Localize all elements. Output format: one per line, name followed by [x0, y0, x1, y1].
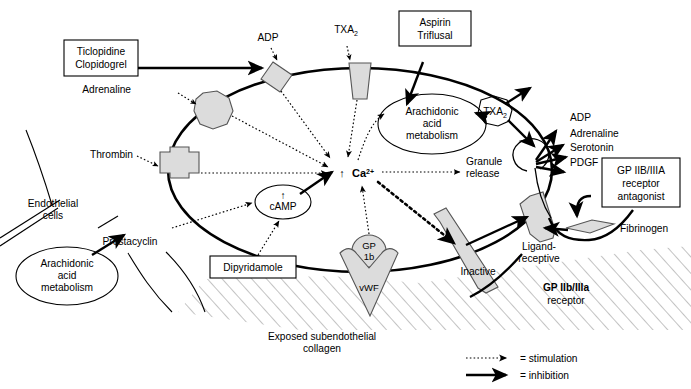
arachidonic-acid-metabolism-endothelium: Arachidonic acid metabolism — [16, 247, 118, 305]
aam-platelet-line3: metabolism — [406, 130, 458, 141]
endothelial-cells-line1: Endothelial — [28, 198, 78, 209]
legend-inhibition-label: = inhibition — [520, 370, 569, 381]
gp2b3a-receptor-line2: receptor — [547, 295, 585, 306]
ligand-receptive-line1: Ligand- — [522, 241, 556, 252]
aam-platelet-line1: Arachidonic — [405, 106, 458, 117]
fibrinogen-molecule[interactable] — [566, 220, 614, 233]
aspirin-line2: Triflusal — [417, 30, 452, 41]
diagram-canvas: GP 1b vWF Arachidonic acid metabolism TX… — [0, 0, 691, 389]
endothelial-cells-line2: cells — [43, 210, 63, 221]
adp-receptor[interactable] — [261, 62, 292, 92]
drug-box-ticlopidine[interactable]: Ticlopidine Clopidogrel — [64, 40, 138, 76]
gp1b-label-line2: 1b — [364, 251, 375, 262]
gp-antagonist-line3: antagonist — [617, 191, 664, 202]
ticlopidine-line2: Clopidogrel — [75, 59, 127, 70]
legend: = stimulation = inhibition — [466, 353, 577, 381]
collagen-line1: Exposed subendothelial — [268, 331, 376, 342]
collagen-line2: collagen — [303, 343, 341, 354]
drug-box-aspirin[interactable]: Aspirin Triflusal — [399, 11, 471, 46]
calcium-up-arrow: ↑ — [339, 167, 345, 179]
gp-antagonist-line1: GP IIB/IIIA — [617, 165, 665, 176]
thrombin-receptor[interactable] — [160, 147, 199, 178]
drug-box-dipyridamole[interactable]: Dipyridamole — [210, 256, 296, 278]
gp2b3a-receptor-line1: GP IIb/IIIa — [543, 282, 590, 293]
camp-node: ↑ cAMP — [255, 185, 311, 219]
gp-antagonist-line2: receptor — [622, 178, 660, 189]
aspirin-line1: Aspirin — [419, 17, 450, 28]
granule-content-serotonin: Serotonin — [570, 142, 614, 153]
granule-release-line1: Granule — [466, 156, 503, 167]
aam-endo-line3: metabolism — [41, 282, 93, 293]
granule-content-adp: ADP — [570, 112, 591, 123]
adrenaline-label: Adrenaline — [82, 84, 131, 95]
granule-release-line2: release — [466, 168, 500, 179]
granule-content-pdgf: PDGF — [570, 157, 598, 168]
fibrinogen-label: Fibrinogen — [620, 223, 668, 234]
calcium-hub: ↑ Ca2+ — [339, 167, 374, 179]
platelet-pathway-diagram: GP 1b vWF Arachidonic acid metabolism TX… — [0, 0, 691, 389]
aam-platelet-line2: acid — [423, 118, 442, 129]
camp-label: cAMP — [269, 201, 296, 212]
vwf-label: vWF — [359, 282, 379, 293]
thrombin-label: Thrombin — [90, 149, 133, 160]
camp-up-arrow: ↑ — [280, 190, 285, 201]
calcium-label: Ca2+ — [352, 167, 374, 179]
txa2-internal-node: TXA2 — [478, 96, 512, 126]
ticlopidine-line1: Ticlopidine — [77, 46, 126, 57]
prostacyclin-label: Prostacyclin — [103, 236, 158, 247]
ligand-receptive-line2: receptive — [518, 253, 560, 264]
dipyridamole-label: Dipyridamole — [223, 262, 283, 273]
txa2-receptor[interactable] — [349, 63, 371, 99]
txa2-external-label: TXA2 — [334, 24, 358, 37]
adp-label: ADP — [258, 32, 279, 43]
drug-box-gp-antagonist[interactable]: GP IIB/IIIA receptor antagonist — [602, 158, 680, 207]
granule-content-adrenaline: Adrenaline — [570, 128, 619, 139]
gp1b-label-line1: GP — [362, 240, 376, 251]
aam-endo-line1: Arachidonic — [40, 258, 93, 269]
inactive-label: Inactive — [460, 266, 495, 277]
arachidonic-acid-metabolism-platelet: Arachidonic acid metabolism — [378, 94, 486, 154]
legend-stimulation-label: = stimulation — [520, 353, 577, 364]
adrenaline-receptor[interactable] — [194, 91, 233, 129]
aam-endo-line2: acid — [58, 270, 77, 281]
